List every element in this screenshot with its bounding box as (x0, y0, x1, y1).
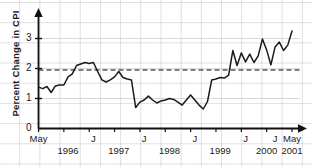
cpi-series-line (39, 31, 293, 109)
x-year-label-1998: 1998 (153, 145, 185, 156)
y-tick-label-2: 2 (20, 62, 32, 73)
x-tick-label-6: May (279, 133, 305, 144)
x-year-label-1996: 1996 (52, 145, 84, 156)
x-tick-label-2: J (131, 133, 157, 144)
x-year-label-2001: 2001 (276, 145, 308, 156)
x-tick-label-0: May (26, 133, 52, 144)
y-tick-label-1: 1 (20, 92, 32, 103)
y-tick-label-3: 3 (20, 32, 32, 43)
y-tick-label-0: 0 (20, 122, 32, 133)
chart-gridlines (39, 39, 301, 129)
x-tick-label-3: J (182, 133, 208, 144)
x-tick-label-4: J (233, 133, 259, 144)
x-tick-label-1: J (80, 133, 106, 144)
x-year-label-1997: 1997 (103, 145, 135, 156)
x-year-label-1999: 1999 (204, 145, 236, 156)
axis-tick-marks (35, 39, 292, 133)
